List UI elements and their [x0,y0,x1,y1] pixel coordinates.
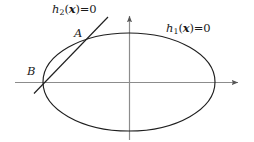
label-point-a: A [74,28,82,40]
label-h2-argument: x [69,2,76,16]
figure-canvas: h2(x)=0 h1(x)=0 A B [0,0,254,142]
label-h2-relation: =0 [80,2,97,16]
label-h1-equation: h1(x)=0 [166,23,210,36]
label-h1-relation: =0 [194,21,211,35]
label-point-b: B [27,66,35,78]
label-h2-equation: h2(x)=0 [52,4,96,17]
label-h1-argument: x [183,21,190,35]
diagram-svg [0,0,254,142]
